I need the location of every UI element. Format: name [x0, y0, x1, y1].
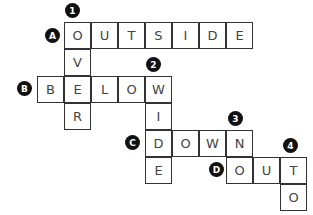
crossword-cell[interactable]: D — [199, 22, 226, 49]
crossword-cell[interactable]: T — [118, 22, 145, 49]
crossword-cell[interactable]: E — [226, 22, 253, 49]
crossword-cell[interactable]: U — [253, 157, 280, 184]
crossword-grid: OUTSIDEVBELOWRIDOWNEOUTO1A2B3C4D — [0, 0, 313, 215]
crossword-cell[interactable]: R — [64, 103, 91, 130]
clue-number-badge: C — [125, 135, 140, 150]
crossword-cell[interactable]: L — [91, 76, 118, 103]
crossword-cell[interactable]: V — [64, 49, 91, 76]
crossword-cell[interactable]: O — [118, 76, 145, 103]
crossword-cell[interactable]: U — [91, 22, 118, 49]
crossword-cell[interactable]: O — [280, 184, 307, 211]
clue-number-badge: 3 — [228, 111, 243, 126]
crossword-cell[interactable]: E — [64, 76, 91, 103]
crossword-cell[interactable]: W — [199, 130, 226, 157]
crossword-cell[interactable]: T — [280, 157, 307, 184]
crossword-cell[interactable]: O — [226, 157, 253, 184]
clue-number-badge: 4 — [283, 138, 298, 153]
crossword-cell[interactable]: N — [226, 130, 253, 157]
clue-number-badge: A — [45, 28, 60, 43]
crossword-cell[interactable]: D — [145, 130, 172, 157]
crossword-cell[interactable]: I — [145, 103, 172, 130]
crossword-cell[interactable]: O — [64, 22, 91, 49]
clue-number-badge: 1 — [65, 3, 80, 18]
crossword-cell[interactable]: W — [145, 76, 172, 103]
clue-number-badge: 2 — [146, 57, 161, 72]
crossword-cell[interactable]: O — [172, 130, 199, 157]
crossword-cell[interactable]: S — [145, 22, 172, 49]
crossword-cell[interactable]: E — [145, 157, 172, 184]
crossword-cell[interactable]: I — [172, 22, 199, 49]
clue-number-badge: B — [17, 81, 32, 96]
crossword-cell[interactable]: B — [37, 76, 64, 103]
clue-number-badge: D — [209, 162, 224, 177]
